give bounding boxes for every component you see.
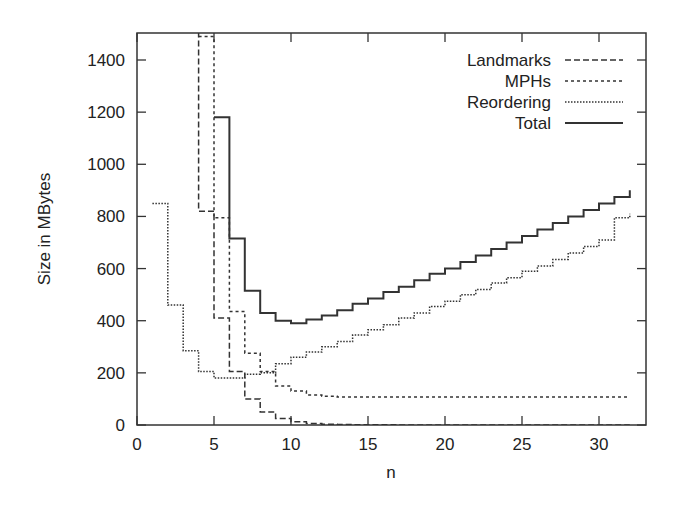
axis-ticks: 0200400600800100012001400051015202530	[87, 33, 646, 454]
x-tick-label: 30	[590, 435, 609, 454]
legend-label-landmarks: Landmarks	[467, 51, 551, 70]
y-tick-label: 200	[97, 364, 125, 383]
chart: 0200400600800100012001400051015202530 La…	[0, 0, 680, 511]
legend-label-reordering: Reordering	[467, 93, 551, 112]
x-tick-label: 25	[513, 435, 532, 454]
y-tick-label: 1400	[87, 51, 125, 70]
series-total	[214, 117, 630, 323]
legend-label-total: Total	[515, 114, 551, 133]
series-reordering	[152, 203, 629, 378]
x-axis-label: n	[386, 463, 395, 482]
legend-label-mphs: MPHs	[505, 72, 551, 91]
x-tick-label: 20	[436, 435, 455, 454]
plot-series	[152, 20, 629, 425]
y-tick-label: 400	[97, 312, 125, 331]
x-tick-label: 5	[209, 435, 218, 454]
x-tick-label: 0	[132, 435, 141, 454]
y-tick-label: 0	[116, 416, 125, 435]
y-tick-label: 1200	[87, 103, 125, 122]
series-mphs	[199, 37, 630, 398]
x-tick-label: 10	[282, 435, 301, 454]
y-axis-label: Size in MBytes	[35, 173, 54, 285]
x-tick-label: 15	[359, 435, 378, 454]
y-tick-label: 800	[97, 207, 125, 226]
y-tick-label: 1000	[87, 155, 125, 174]
y-tick-label: 600	[97, 260, 125, 279]
legend: LandmarksMPHsReorderingTotal	[467, 51, 623, 133]
